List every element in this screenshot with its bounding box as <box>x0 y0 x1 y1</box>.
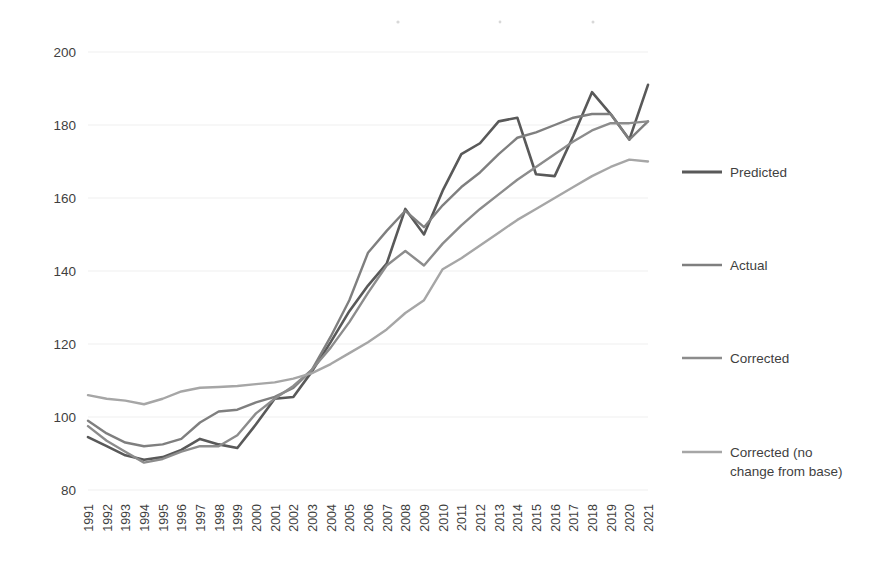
chart-canvas: 80100120140160180200 1991199219931994199… <box>0 0 877 561</box>
x-tick-label-1992: 1992 <box>101 504 115 532</box>
x-axis-tick-labels: 1991199219931994199519961997199819992000… <box>82 504 656 532</box>
x-tick-label-1993: 1993 <box>119 504 133 532</box>
data-series-group <box>88 85 648 463</box>
x-tick-label-1991: 1991 <box>82 504 96 532</box>
x-tick-label-2003: 2003 <box>306 504 320 532</box>
x-tick-label-2020: 2020 <box>623 504 637 532</box>
legend-label-0: Predicted <box>730 165 787 180</box>
y-tick-label: 200 <box>53 45 76 60</box>
x-tick-label-2011: 2011 <box>455 504 469 531</box>
legend-label-1: Actual <box>730 258 768 273</box>
x-tick-label-2005: 2005 <box>343 504 357 532</box>
x-tick-label-1996: 1996 <box>175 504 189 532</box>
y-tick-label: 120 <box>53 337 76 352</box>
x-tick-label-2007: 2007 <box>381 504 395 532</box>
x-tick-label-2009: 2009 <box>418 504 432 532</box>
x-tick-label-1999: 1999 <box>231 504 245 532</box>
x-tick-label-2021: 2021 <box>642 504 656 532</box>
x-tick-label-2001: 2001 <box>269 504 283 532</box>
x-tick-label-2019: 2019 <box>605 504 619 532</box>
series-line-corrected <box>88 121 648 462</box>
y-tick-label: 80 <box>61 483 76 498</box>
legend-label-3-line2: change from base) <box>730 464 843 479</box>
x-tick-label-1998: 1998 <box>213 504 227 532</box>
chart-legend: PredictedActualCorrectedCorrected (nocha… <box>682 165 843 479</box>
gridlines <box>88 52 648 490</box>
x-tick-label-2016: 2016 <box>549 504 563 532</box>
x-tick-label-1994: 1994 <box>138 504 152 532</box>
x-tick-label-2015: 2015 <box>530 504 544 532</box>
x-tick-label-2013: 2013 <box>493 504 507 532</box>
series-line-corrected-no-change-from-base <box>88 160 648 405</box>
legend-label-3: Corrected (no <box>730 445 813 460</box>
x-tick-label-2006: 2006 <box>362 504 376 532</box>
x-tick-label-2017: 2017 <box>567 504 581 532</box>
y-tick-label: 160 <box>53 191 76 206</box>
x-tick-label-1997: 1997 <box>194 504 208 532</box>
x-tick-label-2000: 2000 <box>250 504 264 532</box>
legend-label-2: Corrected <box>730 351 789 366</box>
x-tick-label-1995: 1995 <box>157 504 171 532</box>
x-tick-label-2010: 2010 <box>437 504 451 532</box>
x-tick-label-2014: 2014 <box>511 504 525 532</box>
x-tick-label-2008: 2008 <box>399 504 413 532</box>
series-line-predicted <box>88 85 648 460</box>
y-tick-label: 100 <box>53 410 76 425</box>
line-chart: 80100120140160180200 1991199219931994199… <box>0 0 877 561</box>
scan-artifacts <box>396 20 594 23</box>
y-tick-label: 180 <box>53 118 76 133</box>
x-tick-label-2002: 2002 <box>287 504 301 532</box>
x-tick-label-2012: 2012 <box>474 504 488 532</box>
y-axis-tick-labels: 80100120140160180200 <box>53 45 76 498</box>
x-tick-label-2004: 2004 <box>325 504 339 532</box>
x-tick-label-2018: 2018 <box>586 504 600 532</box>
y-tick-label: 140 <box>53 264 76 279</box>
